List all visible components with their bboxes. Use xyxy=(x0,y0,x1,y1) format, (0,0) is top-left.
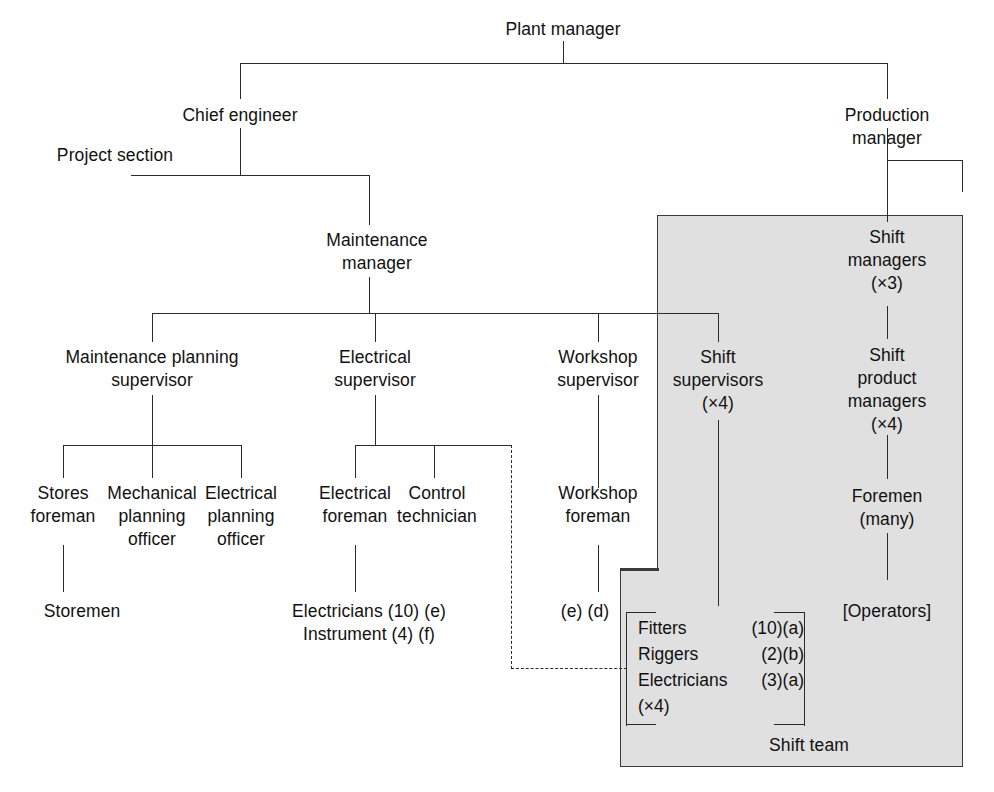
shift-team-count-fitters: (10)(a) xyxy=(751,615,804,641)
connector-product-managers-to-foremen xyxy=(887,435,888,479)
bracket-left-edge xyxy=(626,612,627,726)
shift-team-row-fitters: Fitters (10)(a) xyxy=(638,615,804,641)
bracket-top-right-tick xyxy=(774,612,804,613)
connector-chief-engineer-bar xyxy=(131,175,369,176)
node-chief-engineer: Chief engineer xyxy=(182,104,297,127)
node-electrical-foreman: Electrical foreman xyxy=(319,482,391,528)
connector-electrical-foreman-to-electricians xyxy=(355,545,356,592)
connector-maintenance-manager-bar xyxy=(152,313,718,314)
connector-workshop-foreman-to-notes xyxy=(598,545,599,592)
node-shift-supervisors: Shift supervisors (×4) xyxy=(673,346,764,415)
connector-stores-foreman-to-storemen xyxy=(63,545,64,592)
connector-to-shift-managers xyxy=(887,160,888,222)
bracket-bottom-left-tick xyxy=(626,724,656,725)
connector-to-electrical-planning-officer xyxy=(241,445,242,478)
shift-team-count-riggers: (2)(b) xyxy=(761,641,804,667)
node-production-manager: Production manager xyxy=(834,104,941,150)
shift-team-row-riggers: Riggers (2)(b) xyxy=(638,641,804,667)
shift-team-role-riggers: Riggers xyxy=(638,641,698,667)
node-workshop-supervisor: Workshop supervisor xyxy=(557,346,639,392)
connector-to-workshop-supervisor xyxy=(598,313,599,342)
node-stores-foreman: Stores foreman xyxy=(31,482,96,528)
shift-team-roster: Fitters (10)(a) Riggers (2)(b) Electrici… xyxy=(638,615,804,719)
node-mechanical-planning-officer: Mechanical planning officer xyxy=(107,482,197,551)
node-shift-product-managers: Shift product managers (×4) xyxy=(848,344,927,436)
shift-team-multiplier: (×4) xyxy=(638,693,804,719)
connector-to-chief-engineer xyxy=(240,63,241,99)
node-storemen: Storemen xyxy=(44,600,121,623)
connector-to-maintenance-manager xyxy=(369,175,370,225)
shaded-region-seam-left-edge xyxy=(620,568,659,571)
connector-foremen-to-operators xyxy=(887,533,888,580)
org-chart-diagram: Plant manager Chief engineer Project sec… xyxy=(0,0,994,792)
connector-shift-supervisors-down xyxy=(718,420,719,606)
connector-to-mechanical-planning-officer xyxy=(152,445,153,478)
node-workshop-notes: (e) (d) xyxy=(561,600,609,623)
node-maintenance-manager: Maintenance manager xyxy=(326,229,427,275)
bracket-right-edge xyxy=(804,612,805,726)
connector-maintenance-planning-down xyxy=(152,395,153,445)
bracket-bottom-right-tick xyxy=(774,724,804,725)
connector-plant-manager-bar xyxy=(240,63,887,64)
shift-team-role-electricians: Electricians xyxy=(638,667,727,693)
connector-maintenance-manager-down xyxy=(369,277,370,313)
shaded-region-seam xyxy=(659,566,961,571)
connector-production-manager-stub xyxy=(962,160,963,192)
node-plant-manager: Plant manager xyxy=(505,18,620,41)
node-foremen: Foremen (many) xyxy=(852,485,923,531)
connector-to-control-technician xyxy=(434,445,435,478)
connector-shift-managers-to-product-managers xyxy=(887,306,888,339)
connector-to-electrical-supervisor xyxy=(375,313,376,342)
node-maintenance-planning-supervisor: Maintenance planning supervisor xyxy=(65,346,238,392)
node-control-technician: Control technician xyxy=(397,482,477,528)
connector-to-stores-foreman xyxy=(63,445,64,478)
connector-workshop-supervisor-down xyxy=(598,395,599,445)
node-workshop-foreman: Workshop foreman xyxy=(558,482,637,528)
connector-to-shift-supervisors xyxy=(718,313,719,342)
node-electrical-supervisor: Electrical supervisor xyxy=(334,346,416,392)
node-operators: [Operators] xyxy=(843,600,932,623)
shift-team-row-electricians: Electricians (3)(a) xyxy=(638,667,804,693)
shift-team-role-fitters: Fitters xyxy=(638,615,687,641)
node-electrical-planning-officer: Electrical planning officer xyxy=(205,482,277,551)
node-shift-managers: Shift managers (×3) xyxy=(848,226,927,295)
node-project-section: Project section xyxy=(57,144,173,167)
node-electricians-instrument: Electricians (10) (e) Instrument (4) (f) xyxy=(292,600,446,646)
connector-chief-engineer-down xyxy=(240,128,241,175)
shift-team-count-electricians: (3)(a) xyxy=(761,667,804,693)
bracket-top-left-tick xyxy=(626,612,656,613)
dashed-connector-horizontal-to-shift-team xyxy=(511,668,627,669)
connector-electrical-supervisor-down xyxy=(375,395,376,445)
connector-production-manager-bar xyxy=(887,160,963,161)
shift-team-caption: Shift team xyxy=(769,734,849,757)
connector-to-maintenance-planning-supervisor xyxy=(152,313,153,342)
dashed-connector-vertical-to-shift-team xyxy=(511,445,512,669)
connector-to-production-manager xyxy=(887,63,888,99)
connector-to-electrical-foreman xyxy=(355,445,356,478)
connector-plant-manager-down xyxy=(563,41,564,63)
